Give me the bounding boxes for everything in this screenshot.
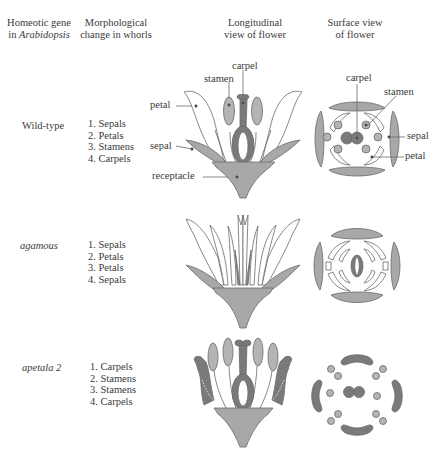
apetala-2-surface-diagram (0, 0, 446, 461)
